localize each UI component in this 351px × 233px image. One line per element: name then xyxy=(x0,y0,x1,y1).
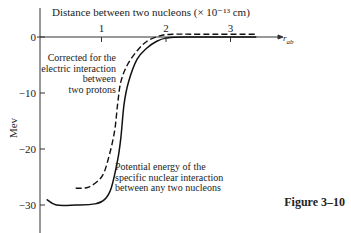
x-axis-end-label: rab xyxy=(283,33,294,46)
annotation-line: Corrected for the xyxy=(48,52,117,63)
x-tick-labels: 123 xyxy=(99,22,234,34)
annotation-line: electric interaction xyxy=(41,63,116,74)
annotations: Corrected for theelectric interactionbet… xyxy=(41,52,223,193)
annotation-corrected: Corrected for theelectric interactionbet… xyxy=(41,52,116,95)
x-axis-label: Distance between two nucleons (× 10⁻¹³ c… xyxy=(52,6,250,19)
y-tick-label: −30 xyxy=(19,199,37,211)
annotation-line: two protons xyxy=(69,84,117,95)
annotation-potential-energy: Potential energy of thespecific nuclear … xyxy=(115,161,223,193)
y-axis-label: Mev xyxy=(7,117,19,138)
x-tick-label: 1 xyxy=(99,22,105,34)
y-tick-labels: 0−10−20−30 xyxy=(19,31,37,211)
axes xyxy=(37,8,283,233)
annotation-line: between any two nucleons xyxy=(115,182,221,193)
annotation-line: between xyxy=(83,73,116,84)
annotation-line: Potential energy of the xyxy=(115,161,206,172)
y-tick-label: −10 xyxy=(19,87,37,99)
figure-label: Figure 3–10 xyxy=(284,195,345,210)
y-tick-label: −20 xyxy=(19,143,37,155)
annotation-line: specific nuclear interaction xyxy=(115,172,223,183)
y-tick-label: 0 xyxy=(31,31,37,43)
x-tick-label: 3 xyxy=(228,22,234,34)
x-tick-label: 2 xyxy=(163,22,169,34)
